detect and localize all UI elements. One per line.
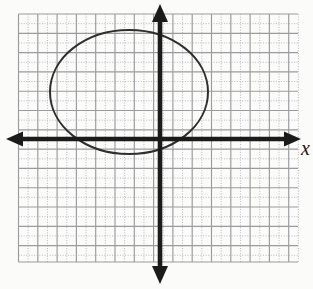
- coordinate-plane-svg: [0, 0, 313, 289]
- graph-figure: x: [0, 0, 313, 289]
- x-axis-label: x: [301, 138, 310, 158]
